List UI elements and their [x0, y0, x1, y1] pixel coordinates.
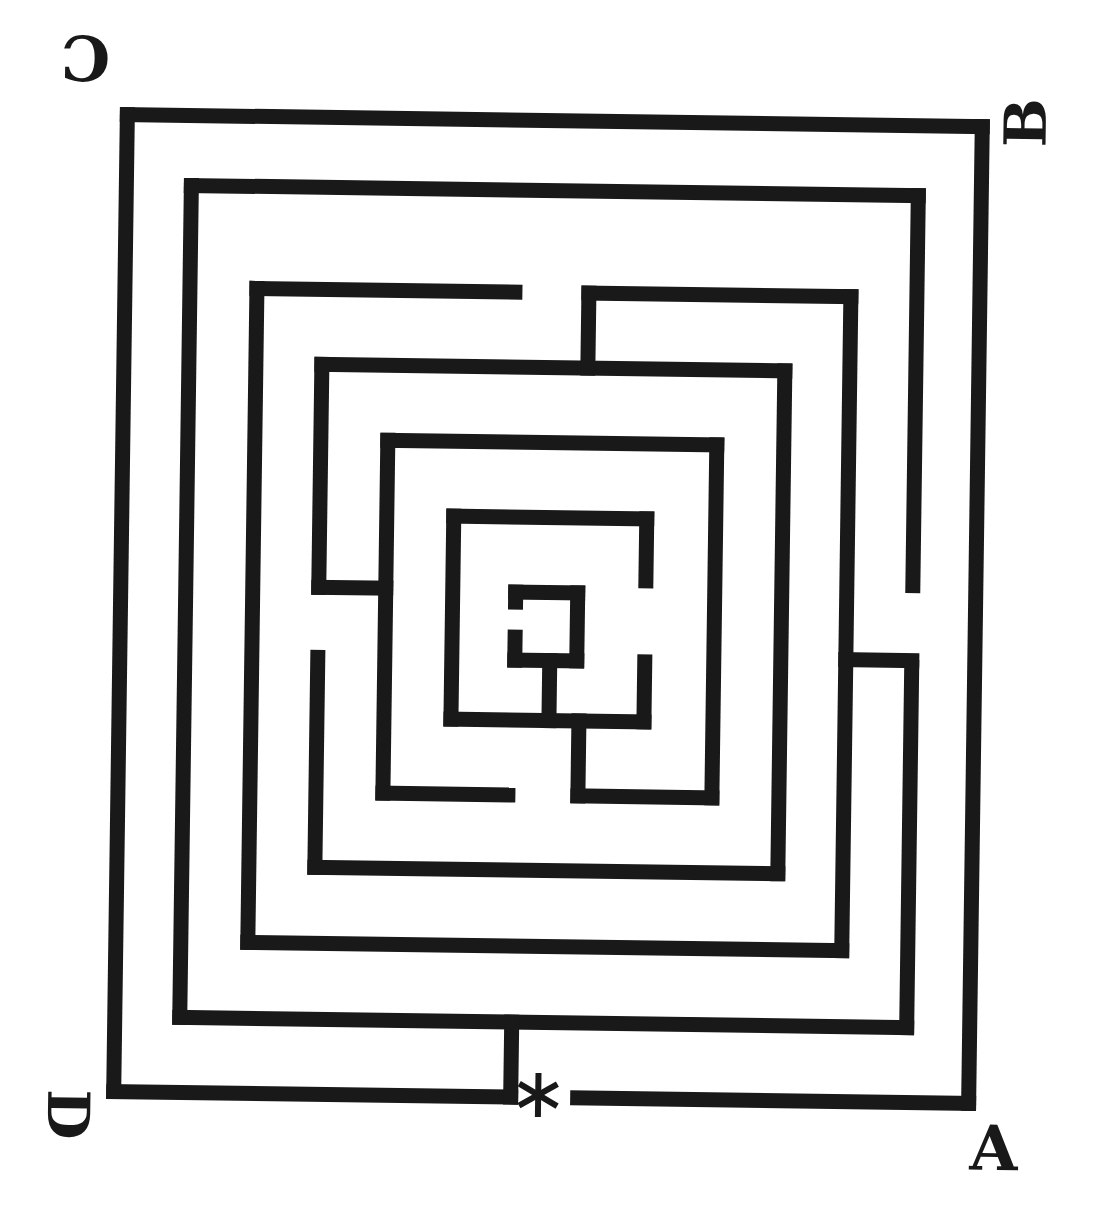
- wall-ring1-bottom-left: [106, 1084, 518, 1105]
- wall-ring3-left: [240, 281, 264, 950]
- wall-ring5-bottom-right: [570, 788, 719, 805]
- wall-entrance-baffle: [503, 1014, 519, 1104]
- corner-label-a: A: [968, 1111, 1019, 1185]
- corner-label-d: D: [34, 1089, 103, 1140]
- wall-ring5-right: [704, 437, 724, 805]
- corner-label-b: B: [991, 98, 1060, 148]
- wall-left-mid-baffle: [311, 580, 393, 596]
- wall-ring6-left: [443, 509, 461, 727]
- corner-label-c: C: [60, 21, 110, 95]
- wall-ring1-left: [106, 107, 135, 1099]
- wall-ring5-bottom-left: [375, 786, 515, 803]
- wall-ring1-right: [961, 119, 990, 1111]
- wall-ring2-right-upper: [905, 188, 926, 593]
- wall-ring5-left: [375, 433, 395, 801]
- wall-ring3-right: [834, 289, 858, 958]
- scanned-maze-page: CBDA: [0, 0, 1094, 1217]
- wall-ring2-top: [184, 178, 926, 203]
- wall-ring3-top-left: [249, 281, 522, 300]
- wall-ring2-bottom: [172, 1010, 914, 1035]
- wall-ring4-bottom: [307, 860, 785, 882]
- wall-ring4-right: [770, 363, 792, 881]
- maze-root: CBDA: [33, 20, 1061, 1185]
- wall-right-mid-baffle: [838, 652, 919, 668]
- wall-ring1-top: [120, 107, 990, 134]
- wall-ring2-left: [172, 178, 199, 1025]
- wall-ring2-right-lower: [899, 660, 919, 1035]
- wall-top-center-baffle: [580, 285, 596, 375]
- wall-core-left-upper: [508, 584, 523, 609]
- wall-ring4-left-lower: [307, 650, 325, 875]
- maze-figure: CBDA: [0, 0, 1094, 1217]
- wall-ring6-top: [446, 509, 654, 527]
- wall-ring4-left-upper: [311, 357, 329, 595]
- wall-center-stem-outer: [570, 713, 586, 803]
- wall-ring3-top-right: [581, 285, 858, 304]
- wall-ring3-bottom: [240, 935, 849, 959]
- wall-ring1-bottom-right: [570, 1090, 976, 1111]
- maze-entrance-marker: [519, 1073, 558, 1118]
- wall-ring6-right-upper: [638, 511, 654, 588]
- wall-ring6-right-lower: [636, 654, 652, 729]
- wall-core-left-lower: [507, 629, 523, 667]
- maze-walls: [106, 107, 990, 1111]
- wall-ring4-top: [314, 357, 792, 379]
- wall-ring5-top: [380, 433, 724, 453]
